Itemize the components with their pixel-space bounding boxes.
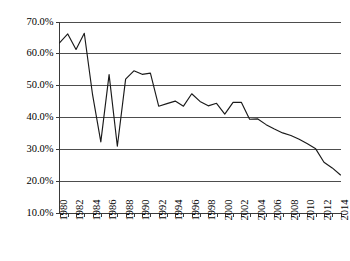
x-tick-label-group: 1998	[206, 200, 217, 221]
x-tick-label: 2004	[256, 199, 267, 221]
x-tick-label: 2010	[305, 200, 316, 221]
x-tick-label: 1982	[74, 200, 85, 221]
y-tick-label: 50.0%	[26, 79, 53, 90]
y-tick-label: 60.0%	[26, 47, 53, 58]
x-tick-label: 2002	[239, 200, 250, 221]
x-tick-label-group: 1988	[124, 200, 135, 221]
y-tick-label: 20.0%	[26, 175, 53, 186]
x-tick-label: 1998	[206, 200, 217, 221]
x-tick-label: 2012	[322, 200, 333, 221]
x-tick-label-group: 1994	[173, 199, 184, 221]
x-tick-label-group: 2012	[322, 200, 333, 221]
x-tick-label: 2014	[339, 199, 350, 221]
chart-canvas: 10.0%20.0%30.0%40.0%50.0%60.0%70.0%19801…	[0, 0, 350, 261]
y-tick-label: 70.0%	[26, 16, 53, 27]
x-tick-label-group: 2010	[305, 200, 316, 221]
x-tick-label-group: 1990	[140, 200, 151, 221]
x-tick-label-group: 1992	[157, 200, 168, 221]
x-tick-label: 2000	[223, 200, 234, 221]
x-tick-label-group: 2002	[239, 200, 250, 221]
x-tick-label: 1984	[91, 199, 102, 221]
x-tick-label-group: 2006	[272, 200, 283, 221]
x-tick-label-group: 2014	[339, 199, 350, 221]
x-tick-label-group: 1984	[91, 199, 102, 221]
x-tick-label-group: 2000	[223, 200, 234, 221]
x-tick-label-group: 1986	[107, 200, 118, 221]
x-tick-label-group: 1996	[190, 200, 201, 221]
x-tick-label: 1988	[124, 200, 135, 221]
line-chart: 10.0%20.0%30.0%40.0%50.0%60.0%70.0%19801…	[0, 0, 350, 261]
x-tick-label: 1992	[157, 200, 168, 221]
x-tick-label: 1980	[58, 200, 69, 221]
y-tick-label: 40.0%	[26, 111, 53, 122]
x-tick-label: 1994	[173, 199, 184, 221]
x-tick-label-group: 1982	[74, 200, 85, 221]
x-tick-label: 1996	[190, 200, 201, 221]
x-tick-label-group: 2008	[289, 200, 300, 221]
y-tick-label: 30.0%	[26, 143, 53, 154]
x-tick-label-group: 1980	[58, 200, 69, 221]
y-tick-label: 10.0%	[26, 207, 53, 218]
x-tick-label: 1990	[140, 200, 151, 221]
x-tick-label-group: 2004	[256, 199, 267, 221]
x-tick-label: 2006	[272, 200, 283, 221]
x-tick-label: 1986	[107, 200, 118, 221]
x-tick-label: 2008	[289, 200, 300, 221]
series-line-0	[60, 33, 341, 175]
